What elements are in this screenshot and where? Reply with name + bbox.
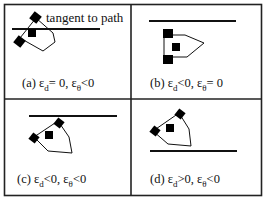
panel-c: (c) εd<0, εθ<0 bbox=[17, 116, 117, 189]
robot-center bbox=[166, 124, 174, 132]
robot-center bbox=[45, 131, 53, 139]
robot-center bbox=[172, 43, 180, 51]
panel-a: tangent to path (a) εd= 0, εθ<0 bbox=[12, 10, 124, 93]
caption-c: (c) εd<0, εθ<0 bbox=[17, 172, 86, 189]
caption-a: (a) εd= 0, εθ<0 bbox=[22, 76, 94, 93]
robot-pose-error-figure: tangent to path (a) εd= 0, εθ<0 (b) εd<0… bbox=[0, 0, 266, 200]
panel-d: (d) εd>0, εθ<0 bbox=[149, 108, 237, 189]
robot-center bbox=[28, 29, 36, 37]
panel-b: (b) εd<0, εθ= 0 bbox=[149, 21, 236, 93]
wheel-right bbox=[163, 55, 173, 64]
tangent-label: tangent to path bbox=[46, 10, 124, 25]
caption-d: (d) εd>0, εθ<0 bbox=[150, 172, 220, 189]
wheel-left bbox=[163, 29, 173, 38]
caption-b: (b) εd<0, εθ= 0 bbox=[150, 76, 223, 93]
wheel-left bbox=[53, 117, 64, 128]
panel-grid bbox=[5, 5, 262, 196]
robot-body bbox=[164, 35, 204, 57]
wheel-left bbox=[174, 108, 185, 119]
wheel-right bbox=[13, 35, 26, 48]
